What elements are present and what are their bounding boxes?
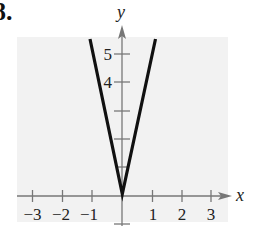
- x-axis-label: x: [235, 185, 244, 205]
- y-tick-label: 5: [104, 45, 113, 64]
- x-tick-label: 1: [149, 205, 158, 224]
- x-tick-label: 2: [178, 205, 187, 224]
- graph: −3 −2 −1 1 2 3 5 4 x y: [0, 0, 260, 234]
- y-axis-label: y: [115, 2, 125, 22]
- x-tick-label: −2: [52, 205, 70, 224]
- x-tick-label: −3: [23, 205, 41, 224]
- x-tick-label: 3: [207, 205, 216, 224]
- x-tick-label: −1: [80, 205, 98, 224]
- y-tick-label: 4: [104, 73, 113, 92]
